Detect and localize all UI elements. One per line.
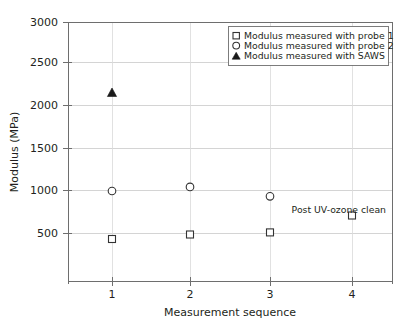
data-point-probe2-seq1 <box>108 187 116 195</box>
x-axis-title: Measurement sequence <box>164 306 296 319</box>
y-tick-label-3000: 3000 <box>30 16 58 29</box>
y-tick-label-1000: 1000 <box>30 184 58 197</box>
chart-legend: Modulus measured with probe 1 Modulus me… <box>228 26 394 65</box>
y-tick-label-1500: 1500 <box>30 142 58 155</box>
legend-marker-open-circle-icon <box>233 42 240 49</box>
annotation-post-uv-ozone-clean: Post UV-ozone clean <box>292 204 386 215</box>
y-tick-label-2500: 2500 <box>30 56 58 69</box>
x-tick-label-1: 1 <box>109 288 116 301</box>
legend-label-saws: Modulus measured with SAWS <box>244 50 385 61</box>
x-tick-label-3: 3 <box>267 288 274 301</box>
legend-marker-open-square-icon <box>233 33 239 39</box>
y-tick-label-2000: 2000 <box>30 99 58 112</box>
data-point-probe1-seq2 <box>187 231 194 238</box>
chart-figure: 3000 2500 2000 1500 1000 500 1 2 3 4 Mod… <box>0 0 407 320</box>
data-point-probe1-seq1 <box>109 236 116 243</box>
data-point-probe1-seq3 <box>267 229 274 236</box>
x-tick-label-2: 2 <box>187 288 194 301</box>
scatter-plot-svg: 3000 2500 2000 1500 1000 500 1 2 3 4 Mod… <box>0 0 407 320</box>
data-point-probe2-seq2 <box>186 183 194 191</box>
x-tick-label-4: 4 <box>349 288 356 301</box>
y-tick-label-500: 500 <box>37 227 58 240</box>
data-point-probe2-seq3 <box>266 193 274 201</box>
y-axis-title: Modulus (MPa) <box>8 112 21 192</box>
